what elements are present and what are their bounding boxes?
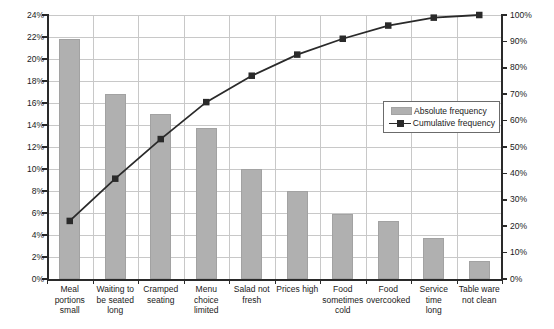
grid-line-vertical	[457, 15, 458, 279]
bar	[196, 128, 217, 279]
bar-swatch-icon	[388, 107, 414, 115]
x-label-line: Salad not	[229, 284, 275, 295]
legend-label-cumulative-frequency: Cumulative frequency	[413, 118, 495, 128]
bar	[332, 214, 353, 279]
y-tick-label-left: 12%	[27, 143, 44, 152]
y-tick-label-left: 10%	[27, 165, 44, 174]
grid-line-vertical	[366, 15, 367, 279]
y-tick-label-right: 80%	[510, 63, 527, 72]
x-label-line: be seated	[93, 295, 139, 306]
y-tick-label-left: 2%	[32, 253, 44, 262]
y-tick-label-right: 0%	[510, 275, 522, 284]
x-label-line: seating	[138, 295, 184, 306]
x-axis-category-label: Menuchoicelimited	[184, 284, 230, 316]
legend-label-absolute-frequency: Absolute frequency	[414, 106, 487, 116]
y-tick-label-left: 0%	[32, 275, 44, 284]
y-tick-label-right: 70%	[510, 90, 527, 99]
x-axis-category-label: Crampedseating	[138, 284, 184, 305]
x-label-line: Food	[320, 284, 366, 295]
chart-legend: Absolute frequency Cumulative frequency	[383, 101, 500, 133]
x-label-line: Prices high	[275, 284, 321, 295]
y-tick-mark-right	[502, 93, 507, 95]
legend-item-absolute-frequency: Absolute frequency	[388, 105, 495, 117]
y-tick-mark-right	[502, 120, 507, 122]
grid-line-vertical	[184, 15, 185, 279]
y-tick-label-right: 10%	[510, 248, 527, 257]
x-label-line: long	[411, 305, 457, 316]
y-tick-label-right: 30%	[510, 195, 527, 204]
y-tick-label-right: 100%	[510, 11, 532, 20]
bar	[241, 169, 262, 279]
y-tick-mark-right	[502, 41, 507, 43]
y-tick-mark-right	[502, 199, 507, 201]
x-tick-mark	[502, 280, 503, 284]
x-label-line: cold	[320, 305, 366, 316]
x-axis-category-label: Service timelong	[411, 284, 457, 316]
y-tick-mark-right	[502, 146, 507, 148]
x-label-line: Food	[366, 284, 412, 295]
y-tick-mark-right	[502, 173, 507, 175]
x-label-line: long	[93, 305, 139, 316]
x-label-line: choice	[184, 295, 230, 306]
bar	[150, 114, 171, 279]
y-tick-label-right: 40%	[510, 169, 527, 178]
x-label-line: fresh	[229, 295, 275, 306]
y-tick-label-left: 4%	[32, 231, 44, 240]
y-tick-label-left: 6%	[32, 209, 44, 218]
x-label-line: Meal	[47, 284, 93, 295]
x-axis-category-label: Foodsometimescold	[320, 284, 366, 316]
x-label-line: limited	[184, 305, 230, 316]
x-axis-category-label: Mealportionssmall	[47, 284, 93, 316]
line-marker-icon	[388, 119, 413, 127]
x-axis-category-label: Prices high	[275, 284, 321, 295]
x-label-line: small	[47, 305, 93, 316]
x-axis-category-label: Waiting tobe seatedlong	[93, 284, 139, 316]
y-tick-label-right: 50%	[510, 143, 527, 152]
y-tick-mark-right	[502, 225, 507, 227]
x-label-line: Menu	[184, 284, 230, 295]
y-tick-label-left: 20%	[27, 55, 44, 64]
grid-line-vertical	[229, 15, 230, 279]
x-label-line: Cramped	[138, 284, 184, 295]
y-axis-left	[47, 14, 49, 280]
bar	[105, 94, 126, 279]
y-tick-label-left: 14%	[27, 121, 44, 130]
x-axis-category-label: Foodovercooked	[366, 284, 412, 305]
y-tick-label-left: 24%	[27, 11, 44, 20]
x-label-line: portions	[47, 295, 93, 306]
bar	[287, 191, 308, 279]
x-label-line: Table ware	[457, 284, 503, 295]
x-label-line: overcooked	[366, 295, 412, 306]
y-tick-label-left: 18%	[27, 77, 44, 86]
y-tick-label-right: 60%	[510, 116, 527, 125]
bar	[469, 261, 490, 279]
y-tick-label-right: 20%	[510, 222, 527, 231]
bar	[423, 238, 444, 279]
grid-line-vertical	[93, 15, 94, 279]
grid-line-vertical	[275, 15, 276, 279]
x-axis-category-label: Salad notfresh	[229, 284, 275, 305]
grid-line-vertical	[411, 15, 412, 279]
grid-line-vertical	[320, 15, 321, 279]
grid-line-vertical	[138, 15, 139, 279]
bar	[59, 39, 80, 279]
y-tick-label-left: 8%	[32, 187, 44, 196]
y-tick-label-left: 22%	[27, 33, 44, 42]
bar	[378, 221, 399, 279]
x-label-line: Waiting to	[93, 284, 139, 295]
pareto-chart: 0%2%4%6%8%10%12%14%16%18%20%22%24% 0%10%…	[0, 0, 554, 329]
y-tick-label-right: 90%	[510, 37, 527, 46]
x-axis-category-label: Table warenot clean	[457, 284, 503, 305]
legend-item-cumulative-frequency: Cumulative frequency	[388, 117, 495, 129]
y-tick-mark-right	[502, 252, 507, 254]
y-tick-mark-right	[502, 14, 507, 16]
y-tick-label-left: 16%	[27, 99, 44, 108]
y-tick-mark-right	[502, 67, 507, 69]
x-label-line: Service time	[411, 284, 457, 305]
x-label-line: not clean	[457, 295, 503, 306]
x-label-line: sometimes	[320, 295, 366, 306]
